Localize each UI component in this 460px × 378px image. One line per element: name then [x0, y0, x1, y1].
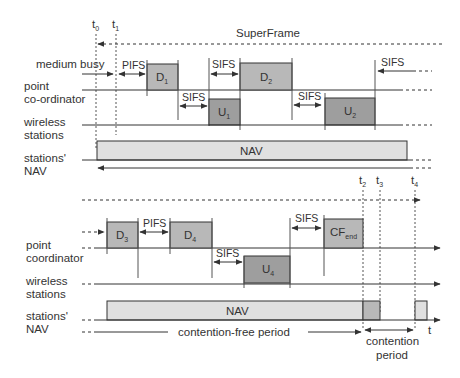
label-wireless-2: wireless — [25, 275, 68, 287]
label-nav-stations-2: stations' — [26, 310, 68, 322]
contention-free-period-label: contention-free period — [178, 326, 290, 338]
svg-text:t3: t3 — [376, 174, 383, 188]
frame-u4: U4 — [244, 256, 290, 283]
nav-contention-block — [363, 301, 380, 320]
pcf-superframe-diagram: t0 t1 SuperFrame medium busy point co-or… — [0, 0, 460, 378]
contention-label-2: period — [376, 349, 408, 361]
label-nav-stations-1: stations' — [24, 152, 66, 164]
frame-u1: U1 — [209, 99, 240, 125]
label-nav-2: NAV — [26, 323, 49, 335]
frame-d1: D1 — [147, 64, 178, 90]
time-marker-t0: t0 — [92, 18, 99, 32]
label-stations-2: stations — [26, 288, 66, 300]
sifs-label-b: SIFS — [182, 91, 205, 103]
sifs-label-c: SIFS — [298, 90, 321, 102]
frame-cf-end: CFend — [324, 219, 363, 248]
contention-label-1: contention — [366, 335, 419, 347]
time-marker-t4: t4 — [411, 174, 418, 188]
pifs-label-top: PIFS — [122, 59, 145, 71]
label-stations-1: stations — [24, 129, 64, 141]
superframe-label: SuperFrame — [236, 27, 300, 39]
label-coordinator-2: coordinator — [26, 252, 84, 264]
svg-text:t1: t1 — [112, 18, 119, 32]
time-marker-t1: t1 — [112, 18, 119, 32]
frame-d4: D4 — [170, 222, 212, 248]
sifs-label-d: SIFS — [381, 56, 404, 68]
nav-bar-top: NAV — [97, 141, 407, 160]
svg-text:t0: t0 — [92, 18, 99, 32]
svg-text:t4: t4 — [411, 174, 418, 188]
frame-u2: U2 — [325, 98, 375, 125]
svg-text:t2: t2 — [359, 174, 366, 188]
frame-d3: D3 — [107, 222, 138, 248]
label-coordinator-1: co-ordinator — [24, 93, 86, 105]
time-axis-label: t — [428, 324, 432, 336]
label-point-1: point — [24, 80, 50, 92]
svg-text:NAV: NAV — [226, 305, 249, 317]
time-marker-t3: t3 — [376, 174, 383, 188]
label-medium-busy: medium busy — [36, 58, 105, 70]
nav-next-block — [415, 301, 427, 320]
frame-d2: D2 — [240, 63, 292, 90]
label-point-2: point — [26, 239, 52, 251]
svg-text:NAV: NAV — [240, 145, 263, 157]
time-marker-t2: t2 — [359, 174, 366, 188]
pifs-label-bottom: PIFS — [143, 217, 166, 229]
label-nav-1: NAV — [24, 165, 47, 177]
sifs-label-f: SIFS — [295, 212, 318, 224]
nav-bar-bottom: NAV — [107, 301, 363, 320]
sifs-label-a: SIFS — [212, 58, 235, 70]
sifs-label-e: SIFS — [216, 247, 239, 259]
label-wireless-1: wireless — [23, 116, 66, 128]
